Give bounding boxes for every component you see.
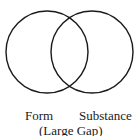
form-label: Form: [25, 109, 53, 122]
substance-label: Substance: [79, 109, 132, 122]
caption-label: (Large Gap): [39, 124, 103, 136]
form-circle: [6, 11, 88, 93]
substance-circle: [51, 11, 133, 93]
